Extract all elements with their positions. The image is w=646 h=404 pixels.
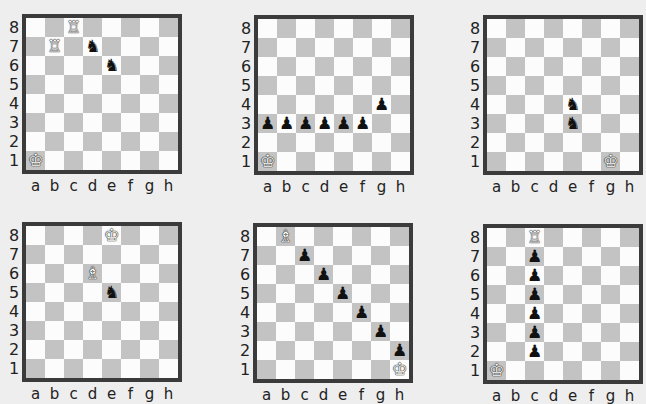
square-b3 xyxy=(45,321,64,340)
file-labels: abcdefgh xyxy=(257,386,409,404)
file-label: h xyxy=(620,387,639,404)
square-h8 xyxy=(391,19,410,38)
square-e6 xyxy=(563,57,582,76)
chess-board: ♗♟♟♟♟♟♟♔ xyxy=(253,223,413,383)
square-h8 xyxy=(159,18,178,37)
square-f8 xyxy=(582,228,601,247)
white-bishop-icon: ♗ xyxy=(83,264,102,283)
black-pawn-icon: ♟ xyxy=(295,246,314,265)
file-label: e xyxy=(102,385,121,403)
square-c5 xyxy=(525,76,544,95)
black-pawn-icon: ♟ xyxy=(258,114,277,133)
white-king-icon: ♔ xyxy=(390,360,409,379)
square-b5 xyxy=(506,76,525,95)
rank-label: 1 xyxy=(240,152,252,171)
black-pawn-icon: ♟ xyxy=(353,114,372,133)
square-f7 xyxy=(582,38,601,57)
square-a2 xyxy=(26,340,45,359)
square-g1 xyxy=(140,151,159,170)
file-label: d xyxy=(314,386,333,404)
square-b6 xyxy=(276,265,295,284)
square-f3 xyxy=(121,113,140,132)
black-knight-icon: ♞ xyxy=(102,283,121,302)
square-h8 xyxy=(620,19,639,38)
rank-label: 8 xyxy=(8,226,20,245)
rank-labels: 87654321 xyxy=(469,19,481,171)
square-b2 xyxy=(45,132,64,151)
square-d1 xyxy=(544,152,563,171)
rank-label: 3 xyxy=(240,114,252,133)
square-a5 xyxy=(26,75,45,94)
square-a4 xyxy=(487,304,506,323)
square-d5 xyxy=(315,76,334,95)
square-g5 xyxy=(372,76,391,95)
square-f3 xyxy=(582,323,601,342)
square-b5 xyxy=(276,284,295,303)
square-f8 xyxy=(121,226,140,245)
square-g4 xyxy=(140,94,159,113)
square-f1 xyxy=(121,359,140,378)
chess-diagram-5: 87654321♗♟♟♟♟♟♟♔abcdefgh xyxy=(239,223,419,404)
file-label: f xyxy=(352,386,371,404)
square-g3 xyxy=(140,113,159,132)
square-d8 xyxy=(83,226,102,245)
square-h5 xyxy=(620,285,639,304)
square-b6 xyxy=(506,266,525,285)
black-pawn-icon: ♟ xyxy=(525,285,544,304)
square-g3 xyxy=(140,321,159,340)
square-f7 xyxy=(121,245,140,264)
rank-label: 1 xyxy=(239,360,251,379)
chess-board: ♞♞♔ xyxy=(483,15,643,175)
file-label: b xyxy=(506,387,525,404)
square-h4 xyxy=(620,304,639,323)
rank-label: 5 xyxy=(469,76,481,95)
square-b5 xyxy=(45,283,64,302)
square-d5 xyxy=(544,285,563,304)
square-a2 xyxy=(258,133,277,152)
file-label: a xyxy=(258,178,277,196)
square-b8: ♗ xyxy=(276,227,295,246)
square-c5: ♟ xyxy=(525,285,544,304)
square-b1 xyxy=(277,152,296,171)
square-g2 xyxy=(601,133,620,152)
file-label: g xyxy=(601,178,620,196)
square-g6 xyxy=(371,265,390,284)
square-b2 xyxy=(506,342,525,361)
square-h6 xyxy=(159,56,178,75)
file-label: f xyxy=(582,387,601,404)
rank-label: 8 xyxy=(469,228,481,247)
black-pawn-icon: ♟ xyxy=(525,266,544,285)
square-c6 xyxy=(64,56,83,75)
square-h2: ♟ xyxy=(390,341,409,360)
square-f2 xyxy=(121,340,140,359)
rank-label: 1 xyxy=(8,151,20,170)
square-a8 xyxy=(258,19,277,38)
square-b8 xyxy=(45,226,64,245)
square-c8: ♖ xyxy=(64,18,83,37)
square-g5 xyxy=(140,75,159,94)
rank-labels: 87654321 xyxy=(8,18,20,170)
square-h7 xyxy=(620,247,639,266)
rank-label: 7 xyxy=(469,38,481,57)
square-e4 xyxy=(102,302,121,321)
black-pawn-icon: ♟ xyxy=(371,322,390,341)
square-b2 xyxy=(276,341,295,360)
square-c1 xyxy=(296,152,315,171)
square-e1 xyxy=(102,359,121,378)
square-d7 xyxy=(544,38,563,57)
square-b5 xyxy=(277,76,296,95)
square-b8 xyxy=(277,19,296,38)
square-b2 xyxy=(277,133,296,152)
black-pawn-icon: ♟ xyxy=(372,95,391,114)
square-h2 xyxy=(620,133,639,152)
square-a4 xyxy=(26,302,45,321)
chess-board: ♖♟♟♟♟♟♟♔ xyxy=(483,224,643,384)
white-king-icon: ♔ xyxy=(487,361,506,380)
square-b7 xyxy=(277,38,296,57)
rank-label: 1 xyxy=(8,359,20,378)
square-f6 xyxy=(582,266,601,285)
square-h5 xyxy=(390,284,409,303)
square-e1 xyxy=(334,152,353,171)
rank-label: 2 xyxy=(239,341,251,360)
square-c7 xyxy=(64,245,83,264)
